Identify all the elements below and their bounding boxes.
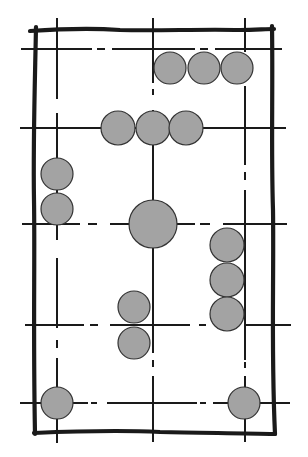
circle-marker-right-stack <box>210 263 244 297</box>
border-left <box>34 27 36 434</box>
border-top <box>30 29 274 31</box>
border-bottom <box>34 431 275 434</box>
circle-marker-lower-center-stack <box>118 327 150 359</box>
circle-marker-bottom-corner <box>41 387 73 419</box>
circle-marker-lower-center-stack <box>118 291 150 323</box>
circle-marker-center-large <box>129 200 177 248</box>
circle-marker-top-row <box>221 52 253 84</box>
circle-marker-second-row <box>101 111 135 145</box>
border-right <box>272 26 275 434</box>
circle-marker-right-stack <box>210 228 244 262</box>
circle-marker-second-row <box>169 111 203 145</box>
circle-marker-left-stack <box>41 158 73 190</box>
circle-marker-left-stack <box>41 193 73 225</box>
grid-plan-diagram <box>0 0 308 457</box>
diagram-canvas <box>0 0 308 457</box>
circle-marker-top-row <box>154 52 186 84</box>
circle-marker-right-stack <box>210 297 244 331</box>
circle-markers <box>41 52 260 419</box>
circle-marker-second-row <box>136 111 170 145</box>
circle-marker-bottom-corner <box>228 387 260 419</box>
circle-marker-top-row <box>188 52 220 84</box>
